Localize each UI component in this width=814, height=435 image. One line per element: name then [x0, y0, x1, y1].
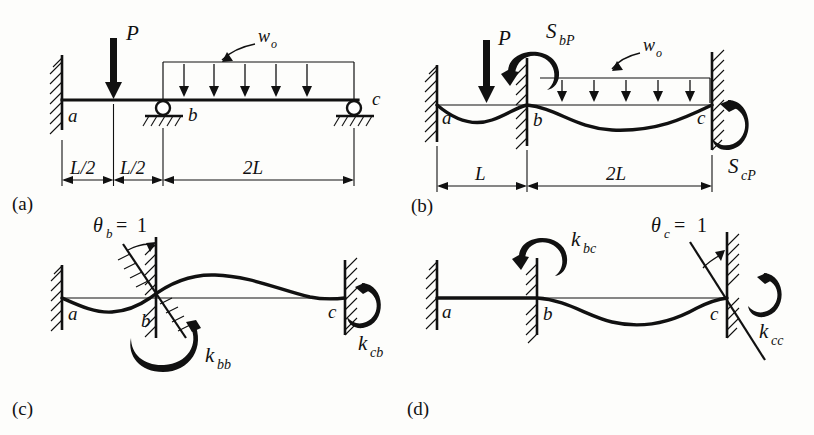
distributed-load-w0 [163, 44, 354, 99]
moment-ScP [712, 100, 749, 150]
label-distributed-load-w: w [643, 35, 655, 55]
label-moment-kcb-main: k [358, 331, 368, 355]
panel-tag-c: (c) [12, 398, 33, 420]
label-node-c: c [697, 107, 706, 128]
label-node-c: c [372, 88, 381, 109]
label-node-b: b [141, 310, 151, 331]
dimension-label-2: L/2 [119, 157, 146, 178]
label-point-load-P: P [125, 21, 139, 45]
moment-kbc [512, 238, 567, 276]
panel-b-drawing: P S bP [407, 0, 814, 220]
dimension-label-2: 2L [606, 163, 626, 184]
support-fixed-c [712, 50, 724, 150]
label-distributed-load-w: w [258, 26, 270, 46]
label-moment-kcc-main: k [759, 319, 769, 343]
panel-a: P [0, 0, 407, 220]
label-moment-SbP-main: S [546, 19, 557, 43]
dimension-label-1: L [474, 163, 486, 184]
panel-c: θ b = 1 k bb [0, 210, 407, 435]
panel-d-drawing: k bc [407, 210, 814, 435]
label-moment-ScP-main: S [728, 154, 739, 178]
support-fixed-a [426, 260, 437, 330]
label-theta-b-symbol: θ [93, 214, 103, 236]
label-moment-kcc-sub: cc [771, 333, 784, 348]
label-moment-kcb-sub: cb [370, 345, 383, 360]
support-fixed-a [425, 65, 437, 142]
label-theta-c-value: 1 [697, 214, 707, 236]
label-moment-SbP-sub: bP [559, 33, 575, 48]
panel-b: P S bP [407, 0, 814, 220]
deflected-shape [437, 105, 712, 130]
panel-a-drawing: P [0, 0, 407, 220]
label-node-a: a [68, 303, 78, 324]
panel-tag-d: (d) [407, 398, 429, 420]
moment-kcb [347, 283, 381, 328]
moment-SbP [501, 52, 559, 90]
label-node-b: b [543, 303, 553, 324]
label-moment-kbb-main: k [205, 343, 215, 367]
support-roller-b [143, 101, 183, 126]
deflected-shape [437, 298, 727, 325]
label-moment-kbb-sub: bb [217, 357, 231, 372]
point-load-P [478, 40, 495, 103]
label-node-a: a [68, 105, 78, 126]
label-node-b: b [188, 104, 198, 125]
support-rotated-fixed-b [118, 237, 190, 338]
panel-d: k bc [407, 210, 814, 435]
label-theta-c-sub: c [664, 226, 670, 241]
label-node-a: a [442, 107, 452, 128]
label-theta-b-value: 1 [137, 214, 147, 236]
label-node-b: b [533, 109, 543, 130]
label-moment-kbc-sub: bc [583, 241, 597, 256]
label-node-c: c [328, 301, 337, 322]
support-fixed-b [516, 58, 527, 149]
label-node-c: c [710, 303, 719, 324]
dimension-label-3: 2L [243, 157, 263, 178]
distributed-load-w0 [540, 53, 710, 103]
panel-c-drawing: θ b = 1 k bb [0, 210, 407, 435]
label-theta-b-equals: = [116, 214, 127, 236]
dimension-label-1: L/2 [69, 157, 96, 178]
structural-beam-figure: P [0, 0, 814, 435]
label-distributed-load-sub: o [656, 46, 662, 60]
label-moment-ScP-sub: cP [741, 168, 756, 183]
label-theta-b-sub: b [106, 226, 113, 241]
label-point-load-P: P [497, 26, 511, 50]
support-rotated-fixed-c [690, 232, 765, 360]
support-fixed-a [50, 55, 62, 134]
moment-kcc [748, 273, 782, 317]
label-moment-kbc-main: k [571, 227, 581, 251]
label-theta-c-equals: = [674, 214, 685, 236]
dimension-group [62, 104, 354, 186]
support-roller-c [334, 101, 374, 126]
label-node-a: a [442, 301, 452, 322]
label-distributed-load-sub: o [271, 37, 277, 51]
point-load-P [105, 38, 122, 99]
label-theta-c-symbol: θ [651, 214, 661, 236]
deflected-shape [62, 275, 345, 312]
support-fixed-b [526, 258, 537, 343]
